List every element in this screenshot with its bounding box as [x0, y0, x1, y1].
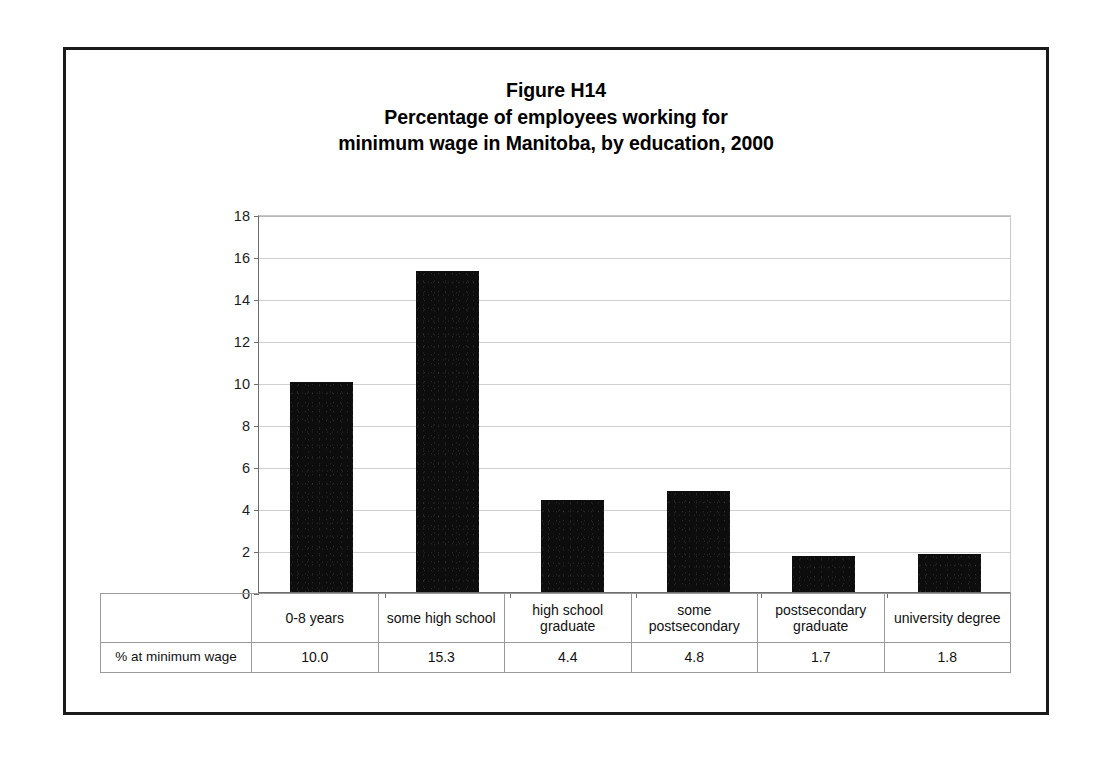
y-axis-tick-label: 8 [242, 419, 250, 434]
value-cell: 15.3 [378, 643, 505, 673]
figure-frame: Figure H14 Percentage of employees worki… [63, 47, 1049, 715]
bar [667, 491, 730, 592]
y-axis-tick-label: 4 [242, 503, 250, 518]
chart-title-line-2: Percentage of employees working for [66, 104, 1046, 131]
value-cell: 10.0 [252, 643, 379, 673]
gridline [259, 426, 1010, 427]
y-axis-tick-label: 6 [242, 461, 250, 476]
y-axis-tick-label: 12 [234, 335, 250, 350]
gridline [259, 342, 1010, 343]
y-axis-tick-label: 10 [234, 377, 250, 392]
plot-wrapper: 024681012141618 [258, 215, 1011, 593]
category-label-line: some [632, 602, 758, 619]
chart-title-line-1: Figure H14 [66, 77, 1046, 104]
y-axis-tick [254, 426, 259, 427]
value-cell: 4.4 [505, 643, 632, 673]
gridline [259, 510, 1010, 511]
y-axis-tick [254, 216, 259, 217]
category-label-cell: somepostsecondary [631, 594, 758, 643]
category-label-line: graduate [758, 618, 884, 635]
value-cell: 4.8 [631, 643, 758, 673]
y-axis-tick [254, 342, 259, 343]
y-axis-tick [254, 552, 259, 553]
series-key-label: % at minimum wage [101, 643, 252, 673]
y-axis-tick-label: 18 [234, 209, 250, 224]
table-row-values: % at minimum wage 10.015.34.44.81.71.8 [101, 643, 1011, 673]
y-axis-tick [254, 384, 259, 385]
plot-area: 024681012141618 [258, 215, 1011, 593]
chart-title: Figure H14 Percentage of employees worki… [66, 77, 1046, 157]
data-table: 0-8 yearssome high schoolhigh schoolgrad… [100, 593, 1011, 673]
y-axis-tick-label: 2 [242, 545, 250, 560]
gridline [259, 552, 1010, 553]
category-label-line: 0-8 years [252, 610, 378, 627]
category-label-cell: some high school [378, 594, 505, 643]
category-label-line: graduate [505, 618, 631, 635]
bar [290, 382, 353, 592]
category-label-cell: university degree [884, 594, 1011, 643]
category-row-key-blank [101, 594, 252, 643]
gridline [259, 258, 1010, 259]
value-cell: 1.7 [758, 643, 885, 673]
category-label-cell: high schoolgraduate [505, 594, 632, 643]
category-label-line: postsecondary [758, 602, 884, 619]
y-axis-tick-label: 14 [234, 293, 250, 308]
bar [416, 271, 479, 592]
bar [792, 556, 855, 592]
table-row-categories: 0-8 yearssome high schoolhigh schoolgrad… [101, 594, 1011, 643]
chart-title-line-3: minimum wage in Manitoba, by education, … [66, 130, 1046, 157]
y-axis-tick [254, 510, 259, 511]
category-label-line: postsecondary [632, 618, 758, 635]
value-cell: 1.8 [884, 643, 1011, 673]
y-axis-tick [254, 258, 259, 259]
category-label-line: some high school [379, 610, 505, 627]
category-label-cell: 0-8 years [252, 594, 379, 643]
gridline [259, 384, 1010, 385]
bar [541, 500, 604, 592]
bar [918, 554, 981, 592]
y-axis-tick [254, 468, 259, 469]
gridline [259, 216, 1010, 217]
category-label-line: high school [505, 602, 631, 619]
y-axis-tick-label: 16 [234, 251, 250, 266]
y-axis-tick [254, 300, 259, 301]
category-label-line: university degree [885, 610, 1011, 627]
category-label-cell: postsecondarygraduate [758, 594, 885, 643]
gridline [259, 468, 1010, 469]
gridline [259, 300, 1010, 301]
